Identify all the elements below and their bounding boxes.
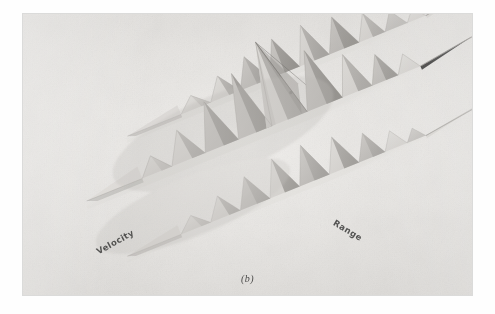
ambiguity-function-surface-model [23,14,472,295]
figure-caption: (b) [23,273,472,284]
photograph-print: Velocity Range (b) [23,14,472,295]
figure-page: Velocity Range (b) [0,0,495,314]
